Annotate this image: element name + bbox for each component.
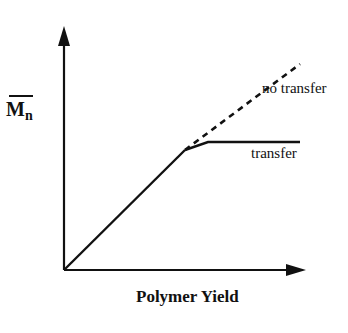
y-label-main: M — [6, 98, 25, 120]
series-no-transfer-line — [185, 64, 300, 150]
series-common-line — [64, 150, 185, 270]
chart: Mn Polymer Yield no transfer transfer — [0, 0, 348, 333]
annotation-no-transfer: no transfer — [262, 80, 327, 97]
annotation-transfer: transfer — [251, 145, 297, 162]
x-axis-label: Polymer Yield — [136, 287, 239, 307]
x-axis-arrow-icon — [286, 264, 306, 276]
overbar — [9, 95, 33, 97]
chart-plot — [0, 0, 348, 333]
y-axis-arrow-icon — [58, 26, 70, 46]
y-label-sub: n — [25, 108, 33, 123]
y-axis-label: Mn — [6, 98, 33, 124]
